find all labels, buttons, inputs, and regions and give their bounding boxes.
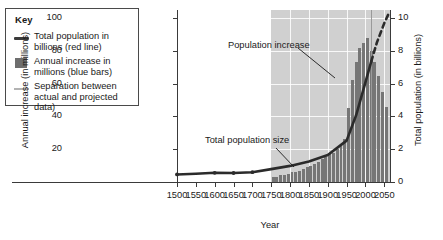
data-point-marker [175, 173, 179, 177]
data-point-marker [213, 171, 217, 175]
leader-line-population-increase [298, 48, 335, 78]
leader-line-total-population [276, 148, 294, 167]
total-population-line-actual [177, 62, 371, 175]
data-point-marker [250, 170, 254, 174]
total-population-line-projected [371, 15, 388, 62]
population-curve-overlay [0, 0, 443, 240]
data-point-marker [232, 171, 236, 175]
annotation-total-population-size: Total population size [205, 135, 289, 145]
annotation-population-increase: Population increase [228, 40, 310, 50]
